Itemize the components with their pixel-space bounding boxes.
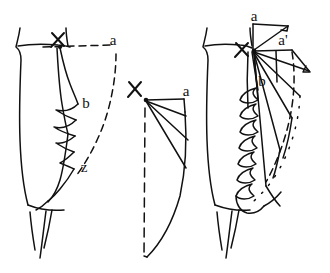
label-right-a-prime: a' xyxy=(278,32,288,48)
label-left-z: z xyxy=(81,159,88,175)
label-left-a: a xyxy=(110,32,117,48)
label-middle-a: a xyxy=(183,83,190,99)
label-left-b: b xyxy=(82,95,90,111)
label-right-b: b xyxy=(258,73,266,89)
diagram-canvas: a b z a a a' b xyxy=(0,0,330,273)
right-drape-inner-edge xyxy=(247,52,248,108)
right-edge-x-to-aprime xyxy=(254,50,292,51)
right-pattern-inner-vertical xyxy=(276,51,277,82)
label-right-a: a xyxy=(251,8,258,24)
middle-bottom-stub xyxy=(144,256,147,257)
middle-top-edge xyxy=(146,99,184,100)
cascade-drape-diagram: a b z a a a' b xyxy=(0,0,330,273)
middle-right-edge-upper xyxy=(184,99,185,112)
